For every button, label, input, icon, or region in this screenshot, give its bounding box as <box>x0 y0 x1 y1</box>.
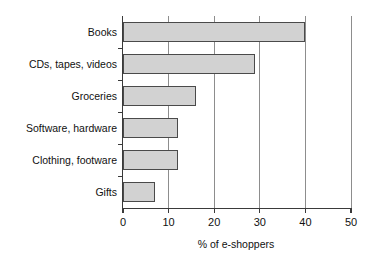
y-axis-tick <box>118 80 123 81</box>
x-axis-tick <box>305 208 306 213</box>
category-label: Gifts <box>0 186 117 198</box>
bar[interactable] <box>123 118 178 138</box>
x-axis-tick-label: 0 <box>108 216 138 229</box>
bar[interactable] <box>123 150 178 170</box>
y-axis-tick <box>118 176 123 177</box>
category-axis-labels: BooksCDs, tapes, videosGroceriesSoftware… <box>0 16 117 208</box>
gridline-50 <box>351 16 352 208</box>
x-axis-tick <box>214 208 215 213</box>
x-axis-tick-label: 40 <box>290 216 320 229</box>
y-axis-tick <box>118 48 123 49</box>
category-label: CDs, tapes, videos <box>0 58 117 70</box>
x-axis-tick-label: 10 <box>154 216 184 229</box>
x-axis-tick <box>259 208 260 213</box>
bar[interactable] <box>123 22 305 42</box>
y-axis-tick <box>118 112 123 113</box>
y-axis-tick <box>118 144 123 145</box>
category-label: Groceries <box>0 90 117 102</box>
x-axis-tick <box>168 208 169 213</box>
category-label: Clothing, footware <box>0 154 117 166</box>
gridline-20 <box>214 16 215 208</box>
bar[interactable] <box>123 182 155 202</box>
bar[interactable] <box>123 86 196 106</box>
gridline-40 <box>305 16 306 208</box>
x-axis-tick <box>350 208 351 213</box>
bar-chart: BooksCDs, tapes, videosGroceriesSoftware… <box>0 0 375 269</box>
x-axis-tick-label: 20 <box>199 216 229 229</box>
x-axis-tick-label: 30 <box>245 216 275 229</box>
plot-area: 01020304050 <box>122 16 351 209</box>
category-label: Books <box>0 26 117 38</box>
gridline-30 <box>259 16 260 208</box>
x-axis-tick-label: 50 <box>336 216 366 229</box>
x-axis-title: % of e-shoppers <box>122 238 350 250</box>
bar[interactable] <box>123 54 255 74</box>
gridline-10 <box>168 16 169 208</box>
category-label: Software, hardware <box>0 122 117 134</box>
x-axis-tick <box>122 208 123 213</box>
